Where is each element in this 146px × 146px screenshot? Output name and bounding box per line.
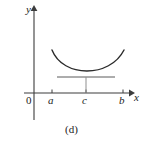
figure-container: y x 0 a c b (d) xyxy=(0,0,146,146)
origin-label: 0 xyxy=(26,95,32,106)
figure-caption: (d) xyxy=(65,124,78,135)
tick-label-b: b xyxy=(119,95,125,106)
y-axis-label: y xyxy=(26,4,31,15)
y-axis-arrowhead-icon xyxy=(31,5,38,11)
x-axis-label: x xyxy=(134,92,139,103)
tick-label-c: c xyxy=(82,95,87,106)
convex-function-curve xyxy=(52,50,124,71)
tick-label-a: a xyxy=(48,95,54,106)
